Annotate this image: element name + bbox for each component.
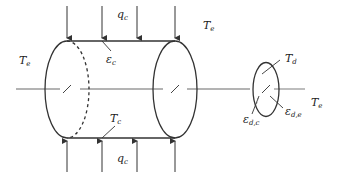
label-q-top: qc: [117, 9, 128, 22]
label-q-bottom: qc: [117, 153, 128, 166]
label-td: Td: [285, 53, 297, 66]
diagram-canvas: [0, 0, 337, 177]
label-te-left: Te: [19, 55, 31, 68]
label-te-top: Te: [203, 20, 215, 33]
label-eps-c: εc: [106, 54, 116, 67]
label-eps-de: εd,e: [285, 106, 302, 119]
leader-tc: [102, 126, 115, 138]
label-eps-dc: εd,c: [243, 114, 260, 127]
label-te-right: Te: [311, 97, 323, 110]
label-tc: Tc: [110, 113, 121, 126]
leader-eps-c: [102, 41, 111, 51]
